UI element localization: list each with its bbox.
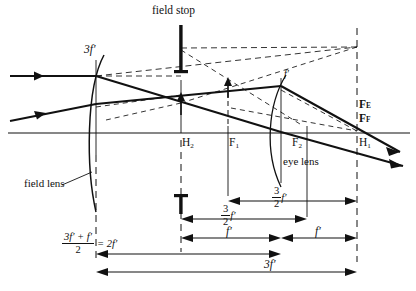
dashed-cross-left-ext [106,103,181,120]
fraction-three-halves-upper: 3 2 [272,185,281,210]
field-stop-label: field stop [152,5,195,17]
dashed-horizontal-upper [96,47,357,76]
field-lens-pointer [62,172,92,185]
image-arrow-f1 [224,77,232,98]
dashed-lower-from-eye [231,108,357,131]
label-ff-subscript: F [366,115,371,124]
label-h1-subscript: 1 [367,142,371,150]
eye-lens-focal-label: f′ [284,69,289,79]
label-f2: F2 [292,137,302,150]
dim-line-three-halves-lower [181,215,307,223]
ray-axial-exit-arrowhead [389,159,403,169]
dim-label-three-halves-upper: 3 2 f′ [272,185,286,210]
dashed-fieldstop-to-right [181,47,357,48]
dim-line-three-halves-upper [228,197,357,205]
incoming-ray-oblique [10,104,96,121]
dim-label-total-separation: 3f′ [264,259,275,271]
label-fe-subscript: E [366,101,371,110]
dim-equals-equivalent-focal: = 2f′ [97,238,117,249]
dim-label-equivalent-focal: 3f′ + f′ 2 = 2f′ [62,231,117,256]
label-h2: H2 [182,137,194,150]
field-stop-lower [174,194,188,214]
dashed-cross-left [181,47,357,103]
field-lens-label: field lens [24,178,65,189]
dim-symbol-lower: f′ [230,210,235,221]
label-f1: F1 [229,137,239,150]
label-fe-letter: F [359,98,366,110]
label-f2-subscript: 2 [298,142,302,150]
dim-label-f-prime-right: f′ [315,226,321,238]
incoming-ray-axial-arrowhead [34,72,44,81]
dashed-lower-to-h1 [281,90,357,131]
dim-line-equivalent-focal [96,250,281,258]
label-f1-subscript: 1 [235,142,239,150]
ray-axial-to-eyelens [96,76,281,132]
label-h2-subscript: 2 [190,142,194,150]
label-ff: FF [359,113,371,125]
dim-symbol-upper: f′ [281,192,286,203]
field-lens-focal-label: 3f′ [84,44,95,56]
eye-lens-label: eye lens [283,156,319,167]
label-fe: FE [359,99,371,111]
dim-label-f-prime-left: f′ [226,226,232,238]
fraction-equivalent-focal: 3f′ + f′ 2 [62,231,94,256]
label-ff-letter: F [359,112,366,124]
label-h1: H1 [359,137,371,150]
dim-line-total-separation [96,268,357,276]
